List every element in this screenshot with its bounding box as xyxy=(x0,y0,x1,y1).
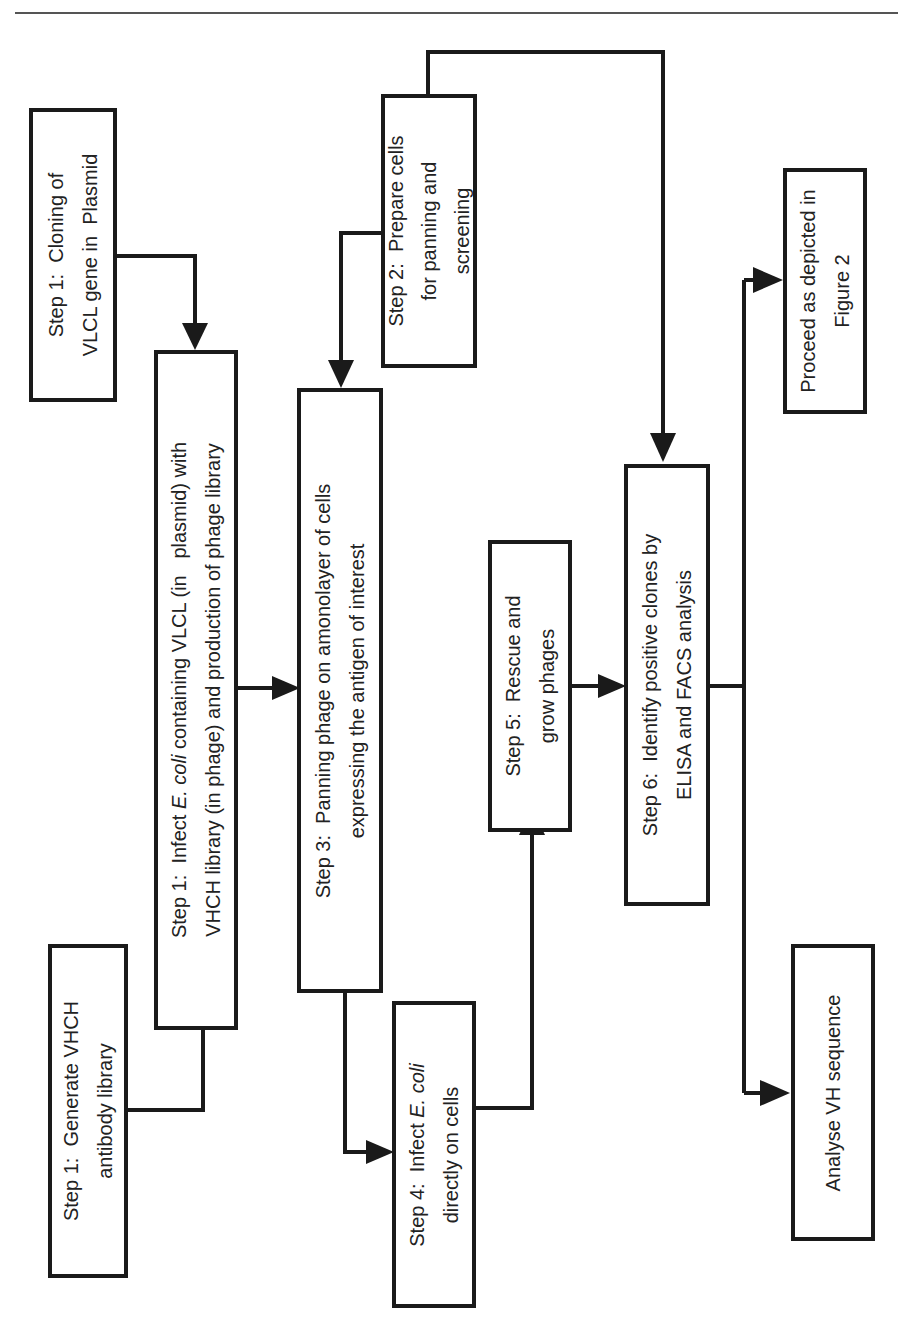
step1-cloning-box: Step 1: Cloning of VLCL gene in Plasmid xyxy=(29,108,117,402)
step6-identify-text: Step 6: Identify positive clones by ELIS… xyxy=(633,534,701,836)
connector-panning-to-infect-direct xyxy=(345,990,372,1152)
proceed-figure2-text: Proceed as depicted in Figure 2 xyxy=(791,189,859,392)
step5-rescue-box: Step 5: Rescue and grow phages xyxy=(488,540,572,832)
step1-generate-library-text: Step 1: Generate VHCH antibody library xyxy=(54,1001,122,1221)
arrowhead-right-icon xyxy=(598,674,626,698)
step1-cloning-text: Step 1: Cloning of VLCL gene in Plasmid xyxy=(39,154,107,357)
connector-gen-to-infect xyxy=(124,1030,203,1110)
step3-panning-text: Step 3: Panning phage on amonolayer of c… xyxy=(306,483,374,898)
arrowhead-right-icon xyxy=(272,676,300,700)
arrowhead-right-icon xyxy=(753,267,783,293)
analyse-vh-box: Analyse VH sequence xyxy=(791,944,875,1241)
step3-panning-box: Step 3: Panning phage on amonolayer of c… xyxy=(297,388,383,993)
step5-rescue-text: Step 5: Rescue and grow phages xyxy=(496,595,564,776)
arrowhead-down-icon xyxy=(328,360,354,388)
step2-prepare-cells-text: Step 2: Prepare cells for panning and sc… xyxy=(380,135,479,326)
connector-infect-direct-to-rescue xyxy=(474,835,532,1108)
arrowhead-down-icon xyxy=(650,433,676,462)
arrowhead-down-icon xyxy=(182,323,208,350)
connector-cloning-to-infect xyxy=(114,256,195,330)
step2-prepare-cells-box: Step 2: Prepare cells for panning and sc… xyxy=(381,94,477,368)
step6-identify-box: Step 6: Identify positive clones by ELIS… xyxy=(624,464,710,906)
proceed-figure2-box: Proceed as depicted in Figure 2 xyxy=(783,168,867,414)
connector-prepare-to-panning xyxy=(341,233,383,368)
arrowhead-right-icon xyxy=(366,1140,394,1164)
step1-infect-ecoli-box: Step 1: Infect E. coli containing VLCL (… xyxy=(154,350,238,1030)
step1-infect-ecoli-text: Step 1: Infect E. coli containing VLCL (… xyxy=(162,442,230,938)
step1-generate-library-box: Step 1: Generate VHCH antibody library xyxy=(48,944,128,1278)
arrowhead-right-icon xyxy=(760,1080,790,1106)
step4-infect-direct-box: Step 4: Infect E. coli directly on cells xyxy=(392,1001,476,1308)
analyse-vh-text: Analyse VH sequence xyxy=(816,994,850,1191)
step4-infect-direct-text: Step 4: Infect E. coli directly on cells xyxy=(400,1063,468,1246)
